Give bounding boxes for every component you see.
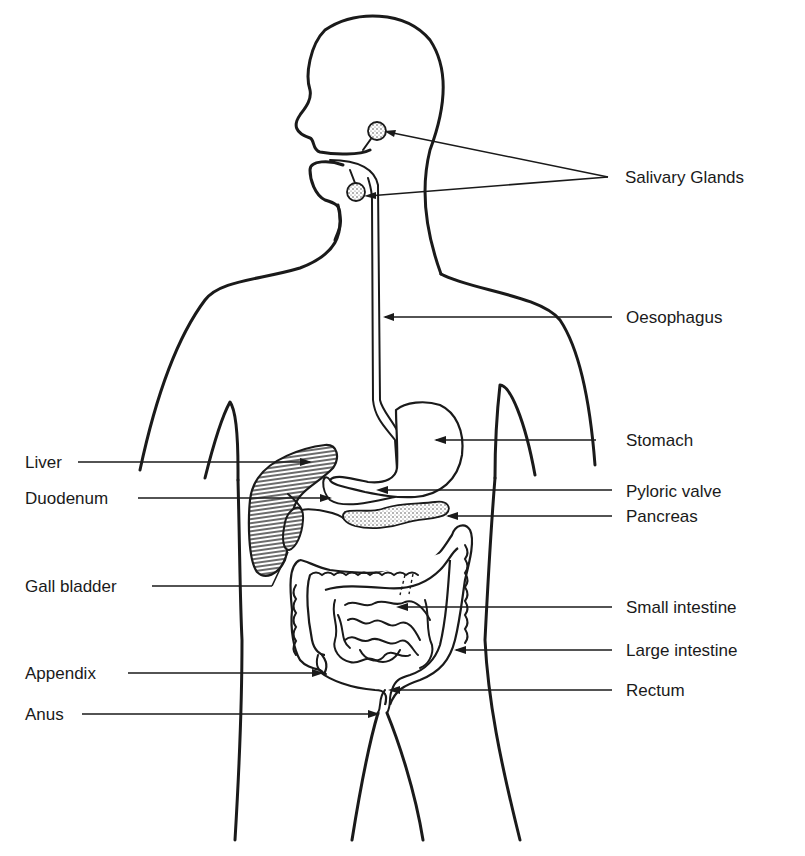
label-large-intestine: Large intestine (626, 641, 738, 660)
left-torso-outline (235, 480, 242, 840)
label-duodenum: Duodenum (25, 489, 108, 508)
label-salivary-glands: Salivary Glands (625, 168, 744, 187)
label-small-intestine: Small intestine (626, 598, 737, 617)
salivary-gland-upper (368, 122, 386, 140)
salivary-gland-lower (347, 183, 365, 201)
right-leg-inner-outline (387, 713, 423, 840)
label-stomach: Stomach (626, 431, 693, 450)
stomach (330, 402, 463, 497)
label-rectum: Rectum (626, 681, 685, 700)
right-shoulder-outline (441, 274, 595, 465)
salivary-duct-lower (350, 170, 355, 183)
label-oesophagus: Oesophagus (626, 308, 722, 327)
right-arm-inner-outline (495, 385, 535, 478)
head-outline (296, 16, 443, 274)
label-pyloric-valve: Pyloric valve (626, 482, 721, 501)
left-shoulder-outline (140, 205, 340, 470)
large-intestine (290, 525, 472, 705)
left-leg-inner-outline (352, 713, 378, 840)
label-liver: Liver (25, 453, 62, 472)
throat-outline (310, 162, 343, 240)
label-pancreas: Pancreas (626, 507, 698, 526)
left-arm-inner-outline (205, 402, 238, 480)
label-appendix: Appendix (25, 664, 96, 683)
label-anus: Anus (25, 705, 64, 724)
label-gall-bladder: Gall bladder (25, 577, 117, 596)
body-outline (140, 16, 595, 840)
digestive-system-diagram: Salivary Glands Oesophagus Stomach Pylor… (0, 0, 805, 856)
pancreas (343, 502, 449, 528)
right-torso-outline (485, 478, 520, 840)
